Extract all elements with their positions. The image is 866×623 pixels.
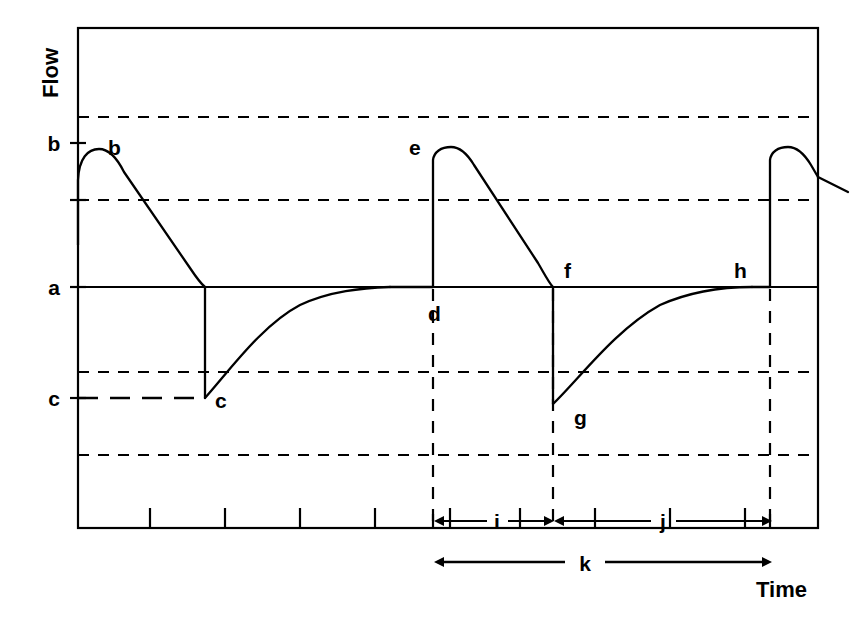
flow-trace xyxy=(78,147,848,404)
flow-time-figure: Flow Time b a c b c d e f g h i j k xyxy=(0,0,866,623)
plot-frame xyxy=(78,28,818,528)
point-label-c: c xyxy=(215,389,227,412)
point-label-d: d xyxy=(428,302,441,325)
flow-cycle-3-expiration xyxy=(770,147,818,287)
y-tick-label-b: b xyxy=(48,132,61,155)
x-axis-title: Time xyxy=(756,577,807,602)
interval-label-i: i xyxy=(494,510,500,533)
y-tick-label-a: a xyxy=(48,276,60,299)
y-tick-label-c: c xyxy=(48,387,60,410)
interval-label-j: j xyxy=(659,510,666,533)
y-axis-title: Flow xyxy=(38,47,63,98)
x-axis-ticks xyxy=(150,508,745,528)
flow-cycle-1-expiration xyxy=(78,149,205,398)
point-label-h: h xyxy=(734,259,747,282)
chart-svg: Flow Time b a c b c d e f g h i j k xyxy=(0,0,866,623)
flow-cycle-3-overflow xyxy=(818,177,848,192)
point-label-g: g xyxy=(574,406,587,429)
point-label-e: e xyxy=(409,136,421,159)
point-label-f: f xyxy=(564,259,572,282)
interval-label-k: k xyxy=(579,552,591,575)
flow-cycle-1-inspiration xyxy=(205,287,390,398)
flow-cycle-2-expiration xyxy=(433,147,553,404)
point-label-b: b xyxy=(108,136,121,159)
cycle-marker-lines xyxy=(433,289,770,528)
plot-border xyxy=(78,28,818,528)
flow-cycle-2-inspiration xyxy=(553,287,752,404)
